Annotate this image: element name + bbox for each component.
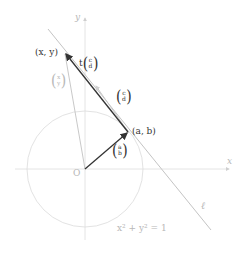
line-l-label: ℓ xyxy=(201,201,205,211)
vector-cd-label: ( c d ) xyxy=(116,89,132,103)
diagram-canvas xyxy=(0,0,246,254)
paren-open: ( xyxy=(112,142,117,158)
y-axis-label: y xyxy=(75,13,80,22)
paren-open: ( xyxy=(83,55,88,71)
vector-cd-components: c d xyxy=(122,90,126,102)
paren-close: ) xyxy=(122,142,127,158)
vector-ab-bottom: b xyxy=(118,150,122,156)
vector-xy-components: x y xyxy=(57,74,60,86)
paren-open: ( xyxy=(51,72,56,88)
origin-label: O xyxy=(73,169,80,178)
vector-tcd-components: c d xyxy=(89,57,93,69)
point-ab-label: (a, b) xyxy=(132,127,156,136)
vector-xy-bottom: y xyxy=(57,80,60,86)
paren-close: ) xyxy=(93,55,98,71)
line-l xyxy=(48,29,211,230)
vector-ab-components: a b xyxy=(118,144,122,156)
paren-close: ) xyxy=(61,72,66,88)
vector-xy-label: ( x y ) xyxy=(51,73,66,87)
x-axis-label: x xyxy=(227,157,232,166)
vector-ab-label: ( a b ) xyxy=(112,143,128,157)
point-xy-label: (x, y) xyxy=(35,48,58,57)
vector-cd-bottom: d xyxy=(122,96,126,102)
paren-open: ( xyxy=(116,88,121,104)
paren-close: ) xyxy=(126,88,131,104)
vector-tcd-label: t ( c d ) xyxy=(79,56,98,70)
circle-equation-label: x² + y² = 1 xyxy=(117,224,167,233)
vector-tcd-bottom: d xyxy=(89,63,93,69)
